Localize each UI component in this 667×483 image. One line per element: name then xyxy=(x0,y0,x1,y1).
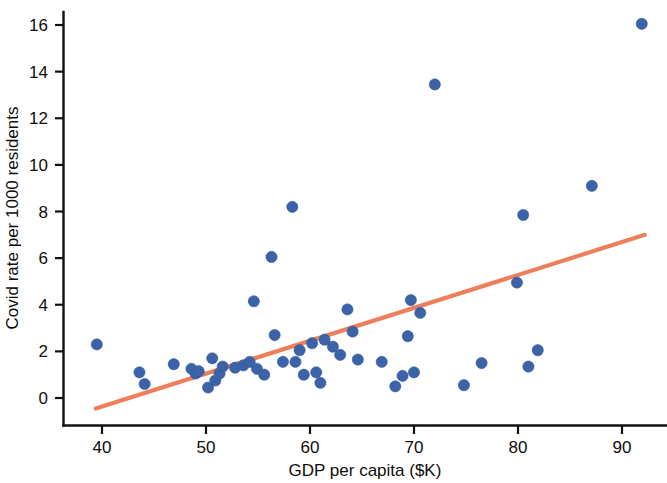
data-point xyxy=(139,378,150,389)
data-point xyxy=(290,356,301,367)
data-point xyxy=(277,356,288,367)
y-tick-label: 0 xyxy=(39,389,48,408)
data-point xyxy=(287,201,298,212)
trend-line xyxy=(96,235,645,409)
data-point xyxy=(266,251,277,262)
data-point xyxy=(342,304,353,315)
data-point xyxy=(269,329,280,340)
axes xyxy=(64,12,667,426)
y-tick-label: 10 xyxy=(29,156,48,175)
data-point xyxy=(193,366,204,377)
y-tick-label: 16 xyxy=(29,16,48,35)
data-point xyxy=(306,338,317,349)
data-point xyxy=(511,277,522,288)
data-point xyxy=(532,345,543,356)
plot-canvas: 0246810121416 405060708090 GDP per capit… xyxy=(0,0,667,483)
data-point xyxy=(636,18,647,29)
data-point xyxy=(207,353,218,364)
data-point xyxy=(311,367,322,378)
data-point xyxy=(298,369,309,380)
data-point xyxy=(429,79,440,90)
data-point xyxy=(347,326,358,337)
data-points xyxy=(91,18,647,393)
y-tick-label: 8 xyxy=(39,203,48,222)
x-tick-label: 40 xyxy=(93,438,112,457)
data-point xyxy=(402,331,413,342)
data-point xyxy=(518,209,529,220)
y-tick-label: 4 xyxy=(39,296,48,315)
data-point xyxy=(91,339,102,350)
y-axis-tick-labels: 0246810121416 xyxy=(29,16,48,408)
y-tick-label: 6 xyxy=(39,249,48,268)
data-point xyxy=(458,380,469,391)
data-point xyxy=(397,370,408,381)
y-axis-ticks xyxy=(55,25,64,398)
y-axis-title: Covid rate per 1000 residents xyxy=(3,106,22,329)
x-tick-label: 70 xyxy=(405,438,424,457)
data-point xyxy=(476,357,487,368)
x-axis-title: GDP per capita ($K) xyxy=(289,461,442,480)
data-point xyxy=(259,369,270,380)
x-axis-tick-labels: 405060708090 xyxy=(93,438,632,457)
data-point xyxy=(294,345,305,356)
scatter-chart-figure: 0246810121416 405060708090 GDP per capit… xyxy=(0,0,667,483)
x-tick-label: 80 xyxy=(509,438,528,457)
data-point xyxy=(168,359,179,370)
data-point xyxy=(405,294,416,305)
y-tick-label: 12 xyxy=(29,109,48,128)
data-point xyxy=(335,349,346,360)
data-point xyxy=(134,367,145,378)
x-axis-ticks xyxy=(102,426,622,435)
data-point xyxy=(217,361,228,372)
data-point xyxy=(248,296,259,307)
data-point xyxy=(415,307,426,318)
data-point xyxy=(376,356,387,367)
data-point xyxy=(408,367,419,378)
data-point xyxy=(523,361,534,372)
data-point xyxy=(352,354,363,365)
data-point xyxy=(315,377,326,388)
x-tick-label: 60 xyxy=(301,438,320,457)
y-tick-label: 2 xyxy=(39,342,48,361)
data-point xyxy=(586,180,597,191)
data-point xyxy=(390,381,401,392)
x-tick-label: 50 xyxy=(197,438,216,457)
y-tick-label: 14 xyxy=(29,63,48,82)
x-tick-label: 90 xyxy=(613,438,632,457)
